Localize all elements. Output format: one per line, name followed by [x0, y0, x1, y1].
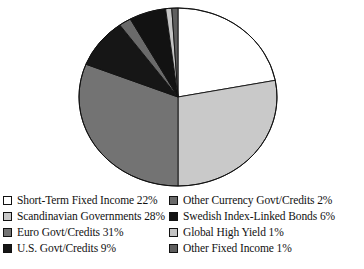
legend-item[interactable]: Global High Yield 1% — [169, 224, 364, 240]
legend-column-left: Short-Term Fixed Income 22% Scandinavian… — [0, 192, 166, 269]
legend-item[interactable]: Scandinavian Governments 28% — [3, 208, 166, 224]
pie-slice[interactable] — [178, 80, 277, 186]
legend-swatch-icon — [169, 228, 178, 237]
pie-chart-plot — [0, 0, 364, 190]
legend-item-label: U.S. Govt/Credits 9% — [17, 240, 116, 256]
legend-item[interactable]: Short-Term Fixed Income 22% — [3, 192, 166, 208]
legend-swatch-icon — [169, 244, 178, 253]
legend-swatch-icon — [169, 196, 178, 205]
legend-item[interactable]: Swedish Index-Linked Bonds 6% — [169, 208, 364, 224]
legend-swatch-icon — [3, 244, 12, 253]
chart-legend: Short-Term Fixed Income 22% Scandinavian… — [0, 192, 364, 269]
legend-item[interactable]: U.S. Govt/Credits 9% — [3, 240, 166, 256]
legend-item-label: Other Currency Govt/Credits 2% — [183, 192, 332, 208]
legend-column-right: Other Currency Govt/Credits 2% Swedish I… — [166, 192, 364, 269]
legend-swatch-icon — [3, 212, 12, 221]
legend-item[interactable]: Other Fixed Income 1% — [169, 240, 364, 256]
legend-item-label: Swedish Index-Linked Bonds 6% — [183, 208, 335, 224]
legend-item-label: Global High Yield 1% — [183, 224, 284, 240]
legend-swatch-icon — [3, 228, 12, 237]
legend-item[interactable]: Euro Govt/Credits 31% — [3, 224, 166, 240]
pie-slice-group — [79, 8, 277, 186]
legend-item-label: Other Fixed Income 1% — [183, 240, 292, 256]
legend-swatch-icon — [169, 212, 178, 221]
legend-swatch-icon — [3, 196, 12, 205]
legend-item-label: Euro Govt/Credits 31% — [17, 224, 124, 240]
pie-chart-figure: Short-Term Fixed Income 22% Scandinavian… — [0, 0, 364, 269]
legend-item[interactable]: Other Currency Govt/Credits 2% — [169, 192, 364, 208]
legend-item-label: Short-Term Fixed Income 22% — [17, 192, 158, 208]
pie-chart-svg — [0, 0, 364, 190]
legend-item-label: Scandinavian Governments 28% — [17, 208, 165, 224]
